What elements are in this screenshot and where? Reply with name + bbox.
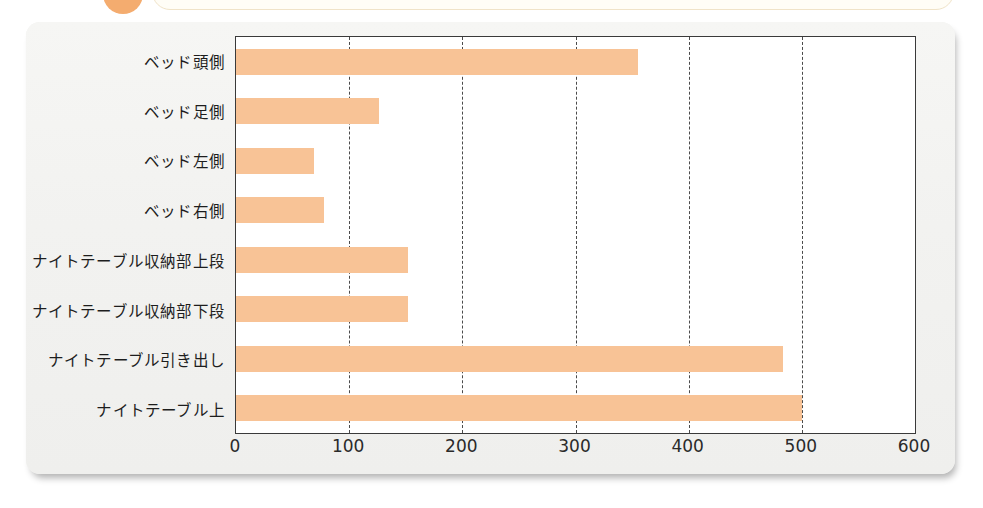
y-axis-label-cell: ベッド右側 — [26, 185, 231, 235]
section-title-box — [152, 0, 954, 10]
y-axis-label-cell: ベッド頭側 — [26, 36, 231, 86]
bar-row — [236, 334, 915, 384]
y-axis-label-cell: ナイトテーブル引き出し — [26, 335, 231, 385]
plot-area — [235, 36, 916, 434]
chart-card: ベッド頭側 ベッド足側 ベッド左側 ベッド右側 ナイトテーブル収納部上段 ナイト… — [26, 22, 955, 474]
y-axis-label-cell: ナイトテーブル上 — [26, 384, 231, 434]
x-axis-tick-label: 200 — [445, 436, 477, 456]
x-axis-tick-label: 400 — [671, 436, 703, 456]
bar — [236, 148, 314, 174]
bar — [236, 346, 783, 372]
y-axis-label: ベッド足側 — [144, 100, 225, 122]
x-axis-tick-label: 100 — [332, 436, 364, 456]
x-axis-tick-label: 600 — [898, 436, 930, 456]
y-axis-label: ベッド左側 — [144, 149, 225, 171]
bar-row — [236, 136, 915, 186]
x-axis-tick-label: 0 — [230, 436, 241, 456]
y-axis-label: ナイトテーブル上 — [96, 398, 225, 420]
bar — [236, 296, 408, 322]
y-axis-labels: ベッド頭側 ベッド足側 ベッド左側 ベッド右側 ナイトテーブル収納部上段 ナイト… — [26, 36, 231, 434]
bar-row — [236, 235, 915, 285]
y-axis-label: ナイトテーブル収納部上段 — [32, 249, 225, 271]
bar — [236, 395, 802, 421]
y-axis-label-cell: ナイトテーブル収納部上段 — [26, 235, 231, 285]
bar-row — [236, 87, 915, 137]
bar-row — [236, 186, 915, 236]
bar — [236, 49, 638, 75]
orange-circle-badge-icon — [103, 0, 143, 14]
y-axis-label: ナイトテーブル収納部下段 — [32, 299, 225, 321]
x-axis-labels: 0100200300400500600 — [235, 436, 916, 466]
page-header-strip — [0, 0, 983, 14]
horizontal-bar-chart: ベッド頭側 ベッド足側 ベッド左側 ベッド右側 ナイトテーブル収納部上段 ナイト… — [26, 22, 955, 474]
y-axis-label-cell: ナイトテーブル収納部下段 — [26, 285, 231, 335]
y-axis-label-cell: ベッド足側 — [26, 86, 231, 136]
bar-row — [236, 285, 915, 335]
bar — [236, 98, 379, 124]
bar-row — [236, 37, 915, 87]
y-axis-label: ベッド頭側 — [144, 50, 225, 72]
bar-rows — [236, 37, 915, 433]
y-axis-label: ベッド右側 — [144, 199, 225, 221]
x-axis-tick-label: 500 — [785, 436, 817, 456]
bar — [236, 197, 324, 223]
x-axis-tick-label: 300 — [558, 436, 590, 456]
bar-row — [236, 384, 915, 434]
bar — [236, 247, 408, 273]
y-axis-label: ナイトテーブル引き出し — [48, 348, 225, 370]
y-axis-label-cell: ベッド左側 — [26, 136, 231, 186]
